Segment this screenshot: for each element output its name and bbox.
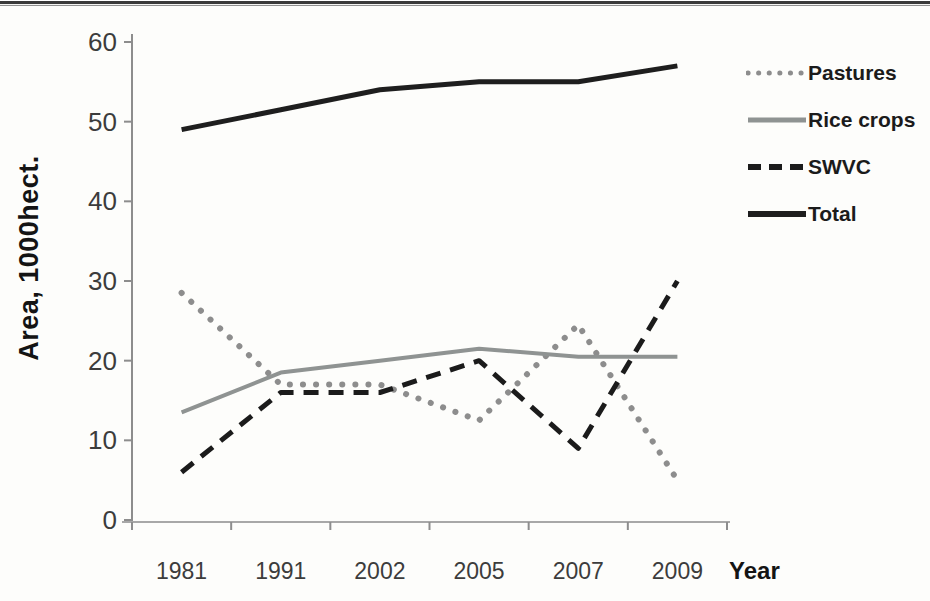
x-tick-label-2005: 2005: [453, 558, 504, 584]
y-tick-label-40: 40: [88, 186, 117, 216]
y-tick-label-10: 10: [88, 425, 117, 455]
legend-item-rice-crops: Rice crops: [746, 96, 926, 143]
y-tick-label-0: 0: [103, 505, 117, 535]
legend-item-pastures: Pastures: [746, 49, 926, 96]
series-line-pastures: [182, 293, 678, 480]
chart-legend: PasturesRice cropsSWVCTotal: [746, 49, 926, 237]
series-line-swvc: [182, 281, 678, 472]
series-line-total: [182, 66, 678, 130]
x-tick-label-2002: 2002: [354, 558, 405, 584]
legend-sample-dashed-line: [746, 155, 808, 179]
y-tick-label-30: 30: [88, 266, 117, 296]
legend-label-total: Total: [808, 202, 857, 226]
legend-item-swvc: SWVC: [746, 143, 926, 190]
x-tick-label-1991: 1991: [255, 558, 306, 584]
legend-label-rice-crops: Rice crops: [808, 108, 915, 132]
legend-sample-solid-line: [746, 202, 808, 226]
y-tick-label-60: 60: [88, 27, 117, 57]
y-tick-label-50: 50: [88, 107, 117, 137]
legend-sample-dotted-line: [746, 61, 808, 85]
legend-label-swvc: SWVC: [808, 155, 871, 179]
legend-item-total: Total: [746, 190, 926, 237]
x-tick-label-1981: 1981: [156, 558, 207, 584]
y-tick-label-20: 20: [88, 346, 117, 376]
legend-label-pastures: Pastures: [808, 61, 897, 85]
legend-sample-solid-line: [746, 108, 808, 132]
x-axis-title: Year: [729, 557, 780, 585]
x-tick-label-2007: 2007: [553, 558, 604, 584]
x-tick-label-2009: 2009: [652, 558, 703, 584]
y-axis-title: Area, 1000hect.: [14, 88, 50, 428]
